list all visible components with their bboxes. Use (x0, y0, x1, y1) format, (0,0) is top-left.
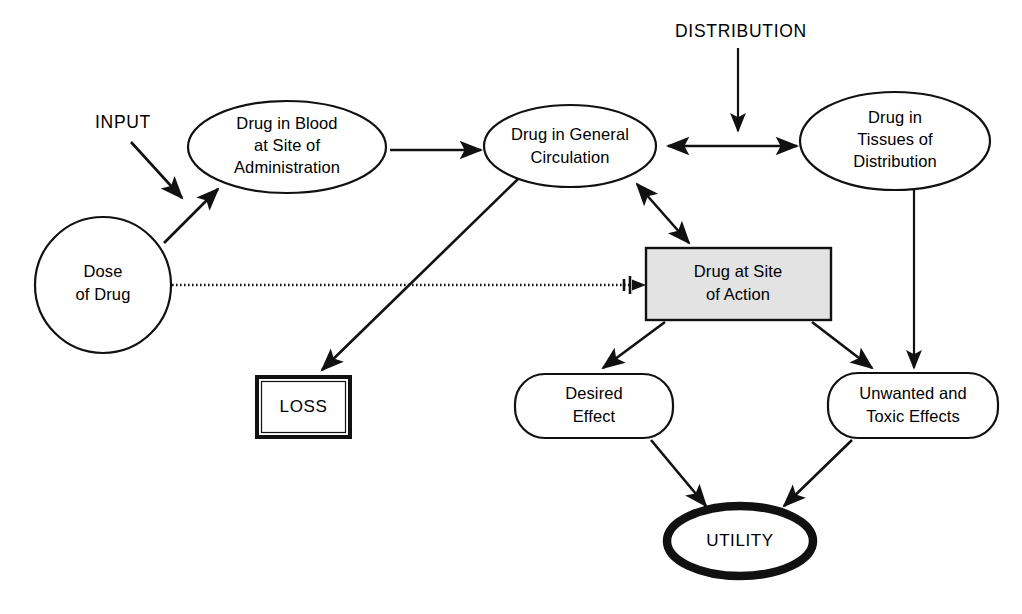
node-toxic-effects[interactable]: Unwanted and Toxic Effects (828, 373, 998, 438)
drug-in-blood-label-line3: Administration (234, 158, 340, 176)
node-desired-effect[interactable]: Desired Effect (515, 374, 673, 438)
drug-in-tissues-label-line2: Tissues of (857, 130, 933, 148)
drug-in-blood-label-line2: at Site of (254, 136, 320, 154)
edge-input-arrow (131, 142, 182, 198)
desired-effect-label-line2: Effect (573, 407, 616, 425)
edge-site-of-action-to-desired-effect (603, 322, 665, 368)
node-drug-in-blood[interactable]: Drug in Blood at Site of Administration (188, 101, 386, 193)
node-dose-of-drug[interactable]: Dose of Drug (35, 217, 171, 353)
edge-dose-to-site-of-action-dotted (172, 276, 646, 294)
toxic-effects-label-line2: Toxic Effects (866, 407, 960, 425)
drug-in-general-circulation-ellipse (484, 105, 656, 187)
drug-in-tissues-label-line3: Distribution (853, 152, 937, 170)
node-utility[interactable]: UTILITY (667, 506, 813, 576)
diagram-canvas: INPUT DISTRIBUTION Site of Action (dotte… (0, 0, 1022, 614)
toxic-effects-label-line1: Unwanted and (859, 384, 967, 402)
edge-site-of-action-to-toxic-effects (812, 322, 872, 368)
drug-at-site-of-action-label-line1: Drug at Site (694, 262, 782, 280)
drug-in-general-circulation-label-line2: Circulation (530, 148, 609, 166)
node-drug-in-general-circulation[interactable]: Drug in General Circulation (484, 105, 656, 187)
loss-label: LOSS (280, 397, 328, 416)
dotted-arrowhead (632, 280, 646, 291)
edge-circulation-site-of-action (637, 184, 689, 243)
edge-dose-to-blood (164, 189, 218, 243)
edge-circulation-to-loss (322, 179, 518, 370)
toxic-effects-rect (828, 373, 998, 438)
edge-label-distribution: DISTRIBUTION (675, 21, 807, 41)
drug-in-blood-label-line1: Drug in Blood (236, 114, 337, 132)
node-loss[interactable]: LOSS (257, 377, 350, 437)
edge-desired-effect-to-utility (651, 440, 706, 506)
drug-at-site-of-action-label-line2: of Action (706, 285, 770, 303)
edge-toxic-effects-to-utility (784, 440, 852, 506)
edge-label-input: INPUT (95, 112, 151, 132)
node-drug-in-tissues[interactable]: Drug in Tissues of Distribution (800, 92, 990, 190)
dose-of-drug-label-line2: of Drug (76, 285, 131, 303)
drug-in-tissues-label-line1: Drug in (868, 108, 922, 126)
node-drug-at-site-of-action[interactable]: Drug at Site of Action (646, 248, 831, 320)
drug-in-general-circulation-label-line1: Drug in General (511, 125, 629, 143)
dose-of-drug-label-line1: Dose (84, 262, 123, 280)
drug-disposition-diagram: INPUT DISTRIBUTION Site of Action (dotte… (0, 0, 1022, 614)
drug-at-site-of-action-rect (646, 248, 831, 320)
desired-effect-label-line1: Desired (565, 384, 623, 402)
utility-label: UTILITY (706, 531, 774, 550)
